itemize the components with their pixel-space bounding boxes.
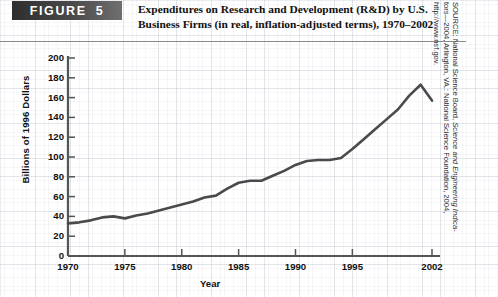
figure-sheet: FIGURE 5 Expenditures on Research and De… [0, 0, 498, 297]
line-chart-svg [0, 46, 466, 297]
x-axis-tick-label: 1975 [114, 261, 135, 272]
figure-title-line-2: Business Firms (in real, inflation-adjus… [138, 17, 460, 32]
header-divider [0, 41, 466, 42]
figure-badge-number: 5 [96, 4, 105, 18]
x-axis-tick-label: 1970 [57, 261, 78, 272]
x-axis-tick-label: 1980 [171, 261, 192, 272]
figure-title-line-1: Expenditures on Research and Development… [138, 2, 460, 17]
x-axis-tick-label: 2002 [421, 261, 442, 272]
figure-number-badge: FIGURE 5 [12, 1, 122, 20]
x-axis-tick-label: 1985 [228, 261, 249, 272]
data-series-line [68, 85, 432, 224]
x-axis-tick-label: 1995 [342, 261, 363, 272]
figure-badge-word: FIGURE [30, 4, 87, 18]
x-axis-tick-label: 1990 [285, 261, 306, 272]
figure-title: Expenditures on Research and Development… [138, 2, 460, 31]
chart-plot-area: Billions of 1996 Dollars Year 0204060801… [0, 46, 466, 297]
